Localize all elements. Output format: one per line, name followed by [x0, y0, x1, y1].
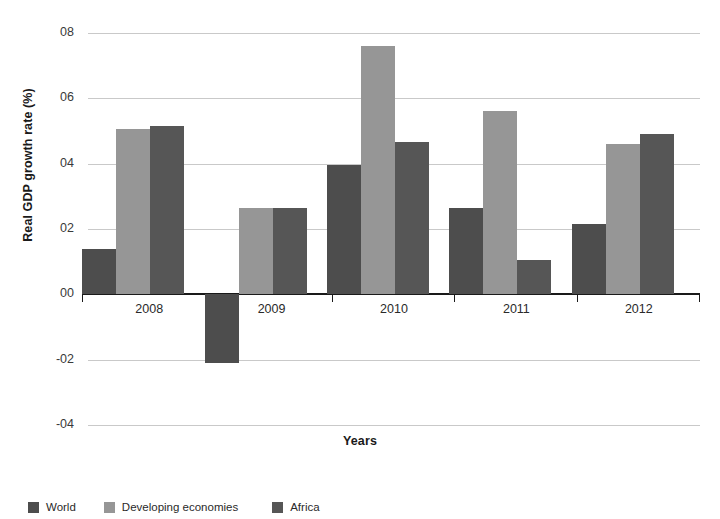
chart-legend: WorldDeveloping economiesAfrica	[28, 501, 346, 513]
y-axis-tick-label: -04	[26, 417, 74, 431]
bar-group: 2012	[578, 33, 700, 425]
bar-group: 2010	[333, 33, 455, 425]
bar-2008-developing-economies	[116, 129, 150, 294]
bar-2010-world	[327, 165, 361, 294]
legend-swatch-icon	[104, 502, 115, 513]
legend-swatch-icon	[272, 502, 283, 513]
bar-2011-developing-economies	[483, 111, 517, 294]
legend-item-africa[interactable]: Africa	[272, 501, 319, 513]
bar-2012-developing-economies	[606, 144, 640, 294]
x-axis-tick-label-2010: 2010	[333, 302, 455, 316]
x-axis-tick-label-2008: 2008	[88, 302, 210, 316]
x-axis-tick	[699, 294, 700, 302]
gdp-growth-bar-chart: Real GDP growth rate (%) 0806040200-02-0…	[0, 0, 720, 519]
bar-2008-africa	[150, 126, 184, 294]
legend-label: World	[46, 501, 76, 513]
legend-label: Developing economies	[122, 501, 238, 513]
y-axis-tick-label: 04	[26, 156, 74, 170]
plot-area: 0806040200-02-0420082009201020112012	[88, 33, 700, 425]
bar-2009-africa	[273, 208, 307, 295]
y-axis-tick-label: 00	[26, 286, 74, 300]
bar-2012-world	[572, 224, 606, 294]
bar-group: 2009	[210, 33, 332, 425]
x-axis-tick-label-2011: 2011	[455, 302, 577, 316]
y-axis-tick-label: 02	[26, 221, 74, 235]
x-axis-title: Years	[0, 434, 720, 448]
x-axis-tick-label-2012: 2012	[578, 302, 700, 316]
legend-label: Africa	[290, 501, 319, 513]
bar-2012-africa	[640, 134, 674, 294]
x-axis-origin-tick	[82, 294, 83, 302]
legend-item-developing-economies[interactable]: Developing economies	[104, 501, 238, 513]
bar-2011-world	[449, 208, 483, 295]
bar-group: 2011	[455, 33, 577, 425]
bar-2010-developing-economies	[361, 46, 395, 294]
bar-group: 2008	[88, 33, 210, 425]
bar-2011-africa	[517, 260, 551, 294]
legend-item-world[interactable]: World	[28, 501, 76, 513]
y-axis-tick-label: 06	[26, 90, 74, 104]
legend-swatch-icon	[28, 502, 39, 513]
bar-2008-world	[82, 249, 116, 295]
bar-2010-africa	[395, 142, 429, 294]
gridline	[88, 425, 700, 426]
y-axis-tick-label: 08	[26, 25, 74, 39]
bar-2009-developing-economies	[239, 208, 273, 295]
x-axis-tick-label-2009: 2009	[210, 302, 332, 316]
y-axis-tick-label: -02	[26, 352, 74, 366]
